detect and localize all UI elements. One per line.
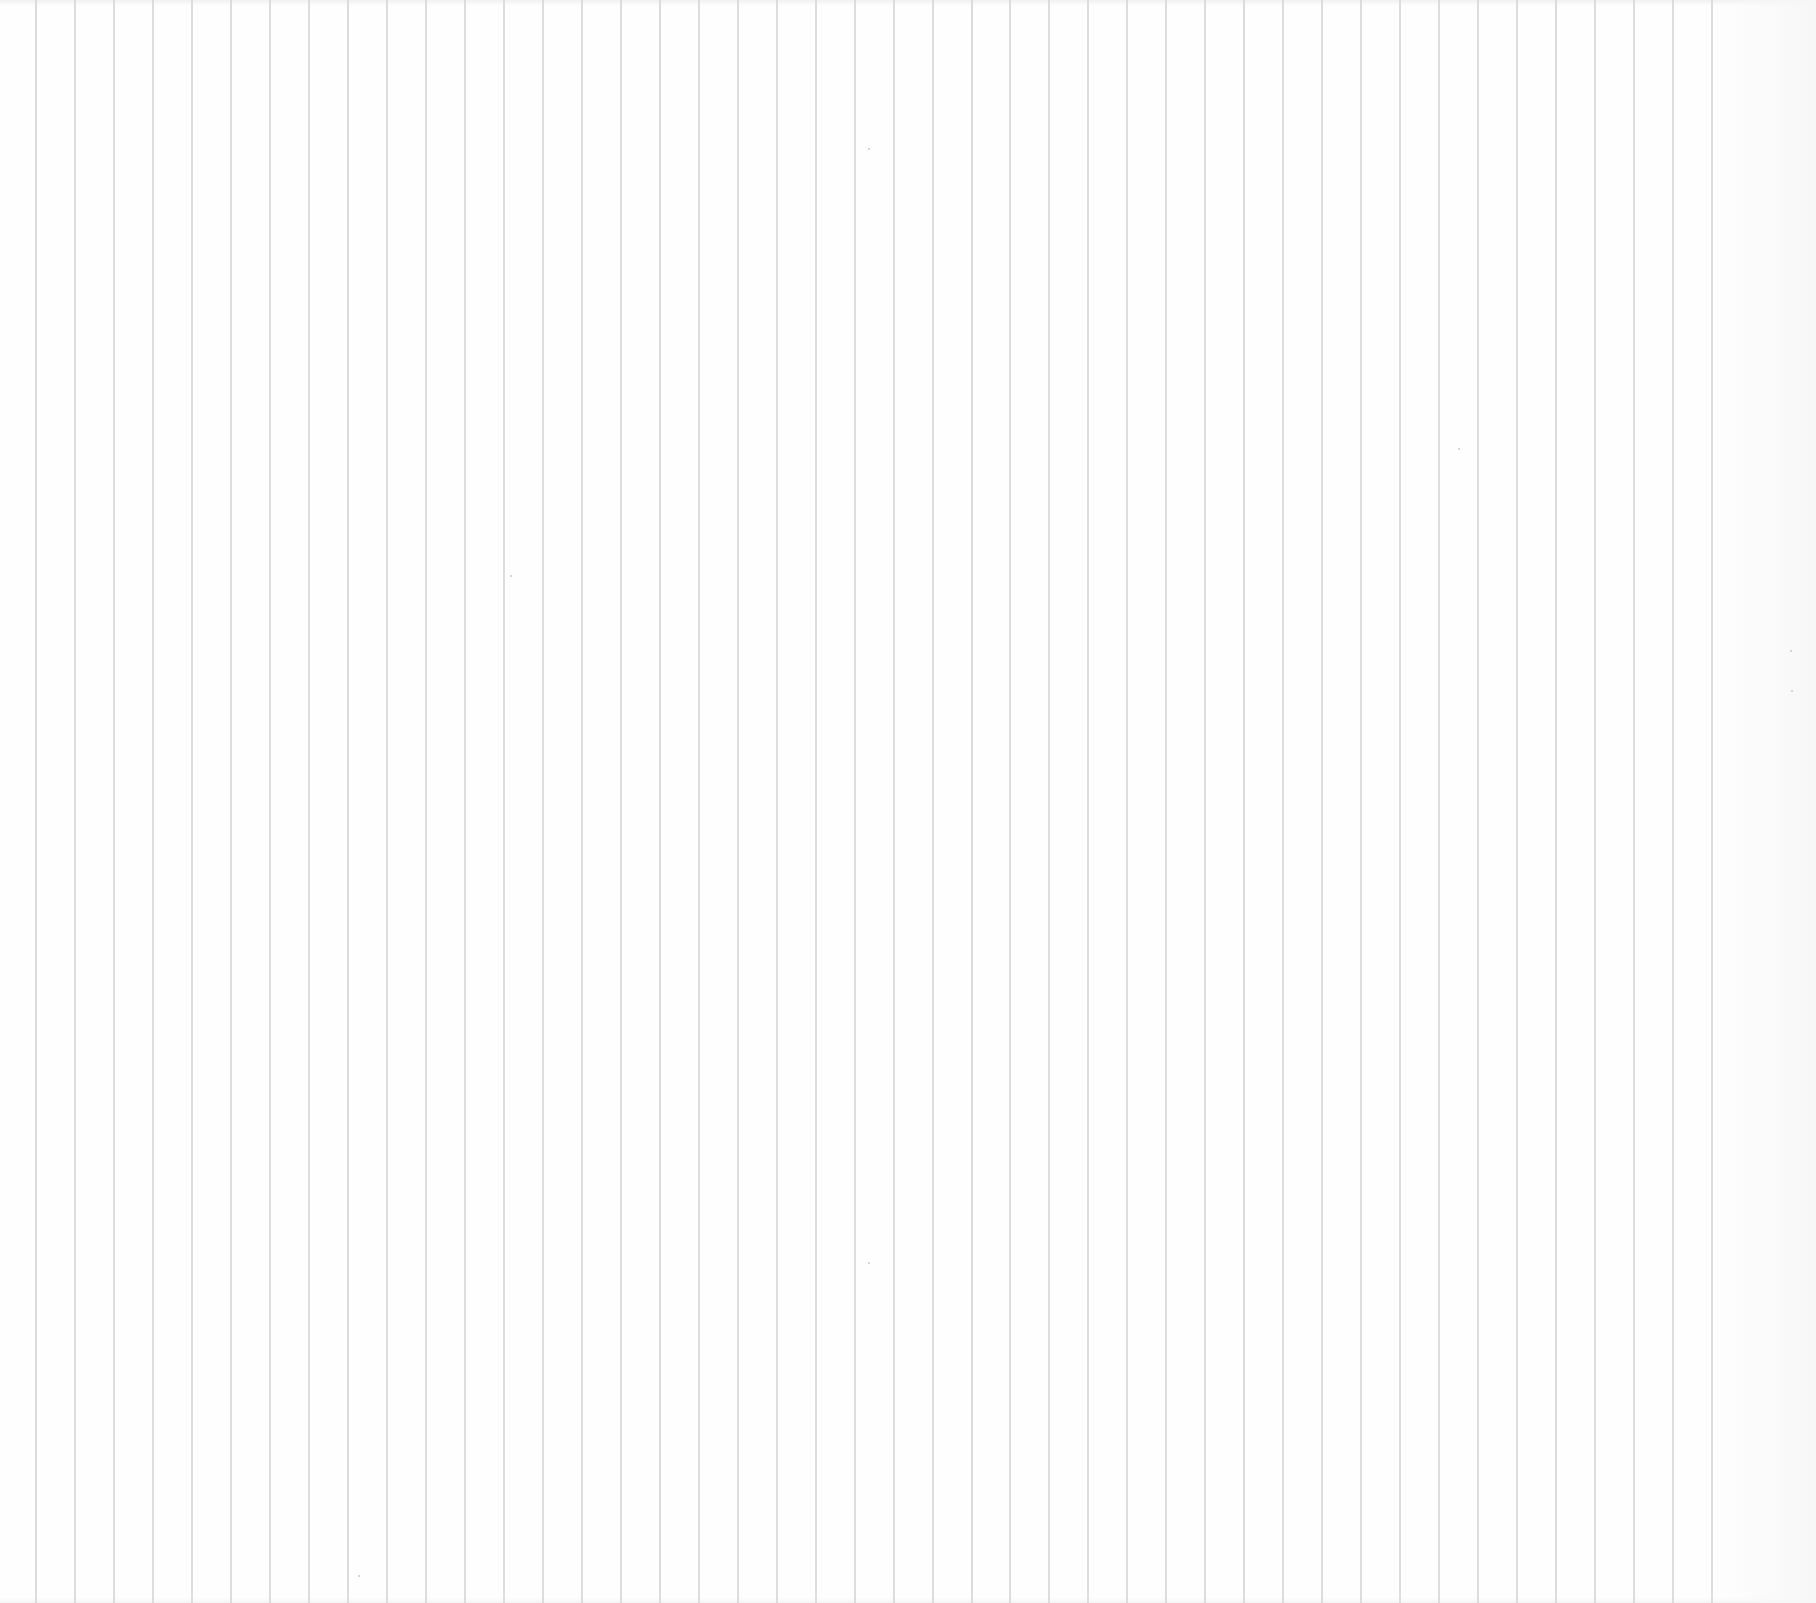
vertical-rule-line (1204, 0, 1206, 1603)
vertical-rule-line (1711, 0, 1713, 1603)
vertical-rule-line (932, 0, 934, 1603)
vertical-rule-line (1048, 0, 1050, 1603)
vertical-rule-line (152, 0, 154, 1603)
vertical-rule-line (191, 0, 193, 1603)
paper-speck (510, 575, 512, 577)
vertical-rule-line (1633, 0, 1635, 1603)
vertical-rule-line (1360, 0, 1362, 1603)
vertical-rule-line (1165, 0, 1167, 1603)
vertical-rule-line (308, 0, 310, 1603)
vertical-rule-line (1555, 0, 1557, 1603)
vertical-rule-line (737, 0, 739, 1603)
vertical-rule-line (503, 0, 505, 1603)
vertical-rule-line (269, 0, 271, 1603)
vertical-rule-line (1516, 0, 1518, 1603)
vertical-rule-line (1672, 0, 1674, 1603)
vertical-rule-line (347, 0, 349, 1603)
vertical-rule-line (1594, 0, 1596, 1603)
vertical-rule-line (464, 0, 466, 1603)
vertical-rule-line (425, 0, 427, 1603)
vertical-rule-line (230, 0, 232, 1603)
vertical-rule-line (971, 0, 973, 1603)
vertical-rule-line (1009, 0, 1011, 1603)
vertical-rule-line (1243, 0, 1245, 1603)
top-edge-shadow (0, 0, 1816, 6)
vertical-rule-line (35, 0, 37, 1603)
vertical-rule-line (620, 0, 622, 1603)
vertical-rule-line (542, 0, 544, 1603)
vertical-rule-line (1477, 0, 1479, 1603)
vertical-rule-line (659, 0, 661, 1603)
paper-speck (868, 1262, 870, 1264)
vertical-rule-line (1282, 0, 1284, 1603)
right-margin (1716, 0, 1816, 1603)
vertical-rule-line (1087, 0, 1089, 1603)
vertical-rule-line (893, 0, 895, 1603)
vertical-rule-line (581, 0, 583, 1603)
vertical-rule-line (776, 0, 778, 1603)
vertical-rule-line (815, 0, 817, 1603)
paper-speck (868, 148, 870, 150)
vertical-rule-line (113, 0, 115, 1603)
paper-speck (358, 1575, 360, 1577)
vertical-rule-line (698, 0, 700, 1603)
ruled-paper-sheet (0, 0, 1816, 1603)
bottom-edge-shadow (0, 1598, 1816, 1603)
vertical-rule-line (1126, 0, 1128, 1603)
vertical-rule-line (854, 0, 856, 1603)
vertical-rule-line (1321, 0, 1323, 1603)
paper-speck (1458, 448, 1460, 450)
paper-speck (1791, 690, 1793, 692)
paper-speck (1790, 650, 1792, 652)
vertical-rule-line (1399, 0, 1401, 1603)
vertical-rule-line (386, 0, 388, 1603)
vertical-rule-line (1438, 0, 1440, 1603)
vertical-rule-line (74, 0, 76, 1603)
